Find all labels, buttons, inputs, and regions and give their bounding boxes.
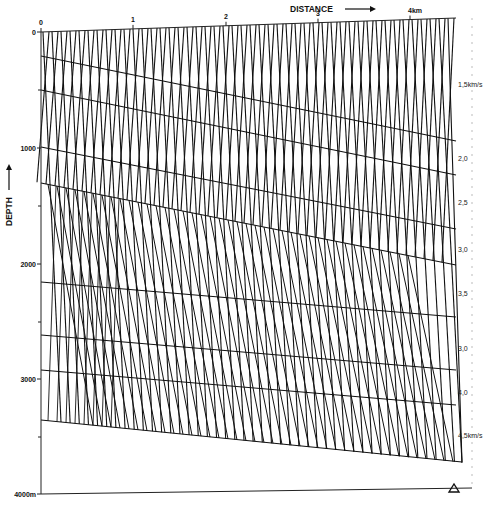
ray-reflected: [372, 248, 417, 458]
ray-down: [169, 28, 189, 435]
velocity-label: 2,5: [458, 199, 468, 206]
y-tick-label: 3000: [20, 376, 36, 383]
ray-up: [316, 22, 328, 237]
ray-reflected: [399, 254, 444, 461]
y-tick-label: 1000: [20, 145, 36, 152]
velocity-label: 3,0: [458, 246, 468, 253]
ray-paths: [37, 18, 462, 463]
ray-deep: [111, 198, 119, 427]
bottom-baseline: [41, 488, 472, 494]
y-axis-title: DEPTH: [4, 197, 14, 226]
velocity-label: 3,5: [458, 290, 468, 297]
x-tick-label: 1: [131, 16, 135, 23]
ray-tracing-diagram: 01234km 01000200030004000m 1,5km/s2,02,5…: [0, 0, 492, 506]
x-ticks: 01234km: [39, 7, 422, 32]
y-tick-label: 0: [32, 29, 36, 36]
ray-reflected: [345, 243, 390, 455]
velocity-label: 4,0: [458, 389, 468, 396]
y-axis-title-group: DEPTH: [4, 197, 14, 226]
ray-reflected: [129, 200, 174, 433]
y-tick-label: 4000m: [14, 491, 36, 498]
ray-reflected: [210, 216, 255, 441]
ray-up: [433, 18, 445, 260]
ray-up: [37, 32, 49, 182]
velocity-label: 3,0: [458, 345, 468, 352]
y-ticks: 01000200030004000m: [14, 29, 41, 498]
velocity-label: 4,5km/s: [458, 432, 483, 439]
ray-up: [343, 21, 355, 242]
ray-reflected: [201, 215, 246, 441]
ray-up: [325, 22, 337, 239]
velocity-label: 1,5km/s: [458, 81, 483, 88]
velocity-label: 2,0: [458, 155, 468, 162]
ray-reflected: [408, 256, 453, 462]
x-tick-label: 0: [39, 19, 43, 26]
x-tick-label: 2: [224, 13, 228, 20]
ray-reflected: [390, 252, 435, 460]
ray-up: [46, 31, 58, 184]
interface-line: [41, 56, 456, 141]
x-axis-arrowhead-icon: [370, 6, 376, 12]
velocity-labels: 1,5km/s2,02,53,03,53,04,04,5km/s: [458, 81, 483, 439]
x-tick-label: 4km: [408, 7, 422, 14]
ray-reflected: [363, 247, 408, 458]
ray-reflected: [219, 218, 264, 442]
ray-down: [178, 27, 198, 436]
ray-up: [55, 31, 67, 186]
y-axis-arrowhead-icon: [6, 164, 12, 170]
ray-reflected: [381, 250, 426, 459]
y-tick-label: 2000: [20, 261, 36, 268]
ray-deep: [102, 197, 110, 427]
ray-reflected: [354, 245, 399, 456]
interface-line: [41, 183, 456, 265]
ray-up: [334, 22, 346, 241]
x-axis-title: DISTANCE: [290, 4, 333, 14]
interface-line: [41, 282, 456, 317]
